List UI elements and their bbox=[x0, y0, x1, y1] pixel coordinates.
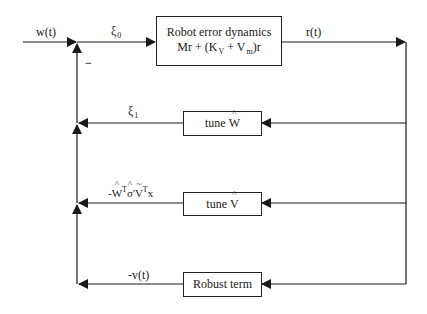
tune-v-block: tune V bbox=[183, 192, 262, 216]
robust-term-block: Robust term bbox=[183, 272, 262, 297]
robust-output-label: -v(t) bbox=[128, 269, 149, 281]
robust-block-label: Robust term bbox=[193, 277, 252, 292]
robot-error-dynamics-block: Robot error dynamics Mr + (KV + Vm)r bbox=[156, 16, 282, 66]
minus-sign: − bbox=[85, 57, 92, 69]
r-dot: r bbox=[188, 40, 192, 55]
input-signal-label: w(t) bbox=[36, 26, 56, 38]
output-signal-label: r(t) bbox=[306, 26, 321, 38]
v-hat: V bbox=[230, 197, 239, 212]
xi1-label: ξ1 bbox=[128, 105, 138, 120]
robot-block-title: Robot error dynamics bbox=[167, 25, 272, 40]
xi0-label: ξ0 bbox=[111, 25, 121, 40]
tune-w-block: tune W bbox=[183, 111, 262, 136]
w-hat: W bbox=[229, 116, 240, 131]
robot-block-equation: Mr + (KV + Vm)r bbox=[177, 40, 260, 57]
tune-v-output-label: -WTσ'VTx bbox=[108, 186, 153, 199]
